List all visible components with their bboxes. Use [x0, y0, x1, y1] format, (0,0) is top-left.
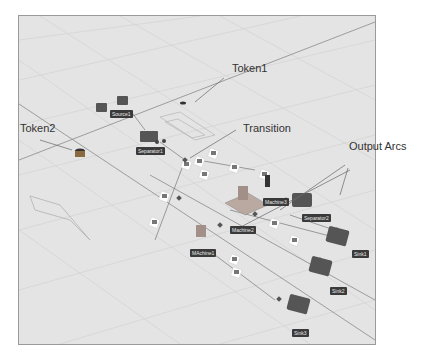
node-label-machine3[interactable]: Machine3	[263, 198, 289, 206]
annotation-token2: Token2	[20, 122, 55, 134]
node-label-source1[interactable]: Source1	[110, 110, 133, 118]
annotation-transition: Transition	[243, 122, 291, 134]
annotation-output-arcs: Output Arcs	[349, 140, 406, 152]
node-label-separator1[interactable]: Separator1	[136, 147, 165, 155]
annotation-token1: Token1	[232, 62, 267, 74]
node-label-machine1[interactable]: MAchine1	[190, 249, 216, 257]
node-label-sink1[interactable]: Sink1	[352, 250, 369, 258]
node-label-sink3[interactable]: Sink3	[292, 329, 309, 337]
model-scene	[0, 0, 424, 359]
node-label-separator2[interactable]: Separator2	[302, 214, 331, 222]
node-label-machine2[interactable]: Machine2	[230, 226, 256, 234]
floor-grid	[19, 16, 375, 344]
node-label-sink2[interactable]: Sink2	[330, 287, 347, 295]
